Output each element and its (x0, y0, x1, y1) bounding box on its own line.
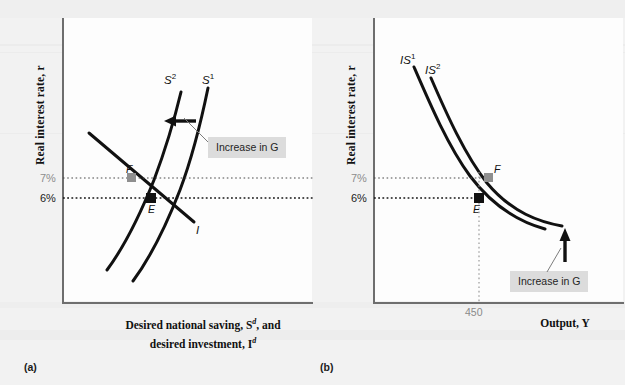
panel-b-y-axis (373, 18, 375, 303)
panel-a-x-axis-label-line2: desired investment, Id (150, 338, 256, 350)
panel-b-callout-increase-in-g: Increase in G (510, 271, 588, 292)
panel-a-tag: (a) (24, 361, 37, 373)
panel-a-ytick-7: 7% (40, 172, 56, 184)
panel-b-point-label-e: E (473, 203, 480, 215)
panel-b-curve-label-is2: IS2 (425, 62, 440, 76)
panel-b-xtick-450: 450 (465, 306, 483, 318)
panel-a-point-label-f: F (126, 163, 132, 175)
panel-a-x-axis-label: Desired national saving, Sd, and desired… (103, 314, 303, 352)
panel-a-curve-label-i: I (196, 224, 199, 236)
panel-a-point-label-e: E (148, 203, 155, 215)
panel-a-curve-label-s1: S1 (202, 72, 214, 86)
panel-a-y-axis (62, 18, 64, 303)
panel-b-tag: (b) (320, 361, 333, 373)
panel-b-ytick-7: 7% (351, 172, 367, 184)
panel-b-curve-label-is1: IS1 (400, 52, 415, 66)
panel-b-x-axis-label: Output, Y (520, 316, 610, 331)
scan-band (0, 0, 625, 18)
panel-b-ytick-6: 6% (351, 192, 367, 204)
panel-b-point-label-f: F (494, 163, 500, 175)
panel-a-y-axis-label: Real interest rate, r (34, 65, 46, 165)
panel-b-x-axis (373, 302, 624, 304)
scan-band (0, 330, 625, 340)
panel-a-curve-label-s2: S2 (164, 72, 176, 86)
panel-a-callout-increase-in-g: Increase in G (208, 137, 286, 158)
panel-b-y-axis-label: Real interest rate, r (345, 65, 357, 165)
panel-a-plot-area (62, 18, 312, 301)
panel-a-ytick-6: 6% (40, 192, 56, 204)
panel-a-x-axis-label-line1: Desired national saving, Sd, and (125, 319, 280, 331)
figure-container: Real interest rate, r Desired national s… (0, 0, 625, 385)
panel-a-x-axis (62, 302, 313, 304)
